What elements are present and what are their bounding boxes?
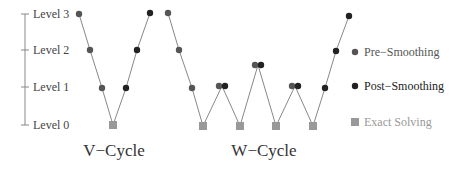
- exact-solving-marker: [236, 122, 244, 130]
- v-cycle-title: V−Cycle: [83, 141, 145, 160]
- pre-smoothing-marker: [176, 47, 182, 53]
- post-smoothing-marker: [147, 10, 153, 16]
- post-smoothing-marker: [322, 85, 328, 91]
- multigrid-cycle-diagram: Level 3Level 2Level 1Level 0 V−CycleW−Cy…: [0, 0, 464, 172]
- pre-smoothing-marker: [252, 62, 258, 68]
- legend-pre-icon: [352, 49, 358, 55]
- legend-post-label: Post−Smoothing: [364, 79, 444, 93]
- post-smoothing-marker: [295, 83, 301, 89]
- post-smoothing-marker: [222, 83, 228, 89]
- pre-smoothing-marker: [165, 10, 171, 16]
- level-label: Level 1: [33, 80, 69, 94]
- level-label: Level 0: [33, 118, 69, 132]
- post-smoothing-marker: [258, 62, 264, 68]
- legend-exact-label: Exact Solving: [364, 115, 432, 129]
- level-label: Level 2: [33, 43, 69, 57]
- v-cycle-path: [79, 13, 150, 125]
- cycle-paths: [79, 13, 349, 126]
- pre-smoothing-marker: [289, 83, 295, 89]
- w-cycle-path: [168, 13, 349, 126]
- legend-exact-icon: [351, 118, 359, 126]
- exact-solving-marker: [199, 122, 207, 130]
- post-smoothing-marker: [333, 48, 339, 54]
- post-smoothing-marker: [134, 47, 140, 53]
- pre-smoothing-marker: [99, 85, 105, 91]
- level-label: Level 3: [33, 7, 69, 21]
- legend: Pre−SmoothingPost−SmoothingExact Solving: [351, 45, 444, 129]
- exact-solving-marker: [272, 122, 280, 130]
- legend-pre-label: Pre−Smoothing: [364, 45, 439, 59]
- w-cycle-title: W−Cycle: [231, 141, 296, 160]
- pre-smoothing-marker: [76, 11, 82, 17]
- post-smoothing-marker: [346, 13, 352, 19]
- cycle-titles: V−CycleW−Cycle: [83, 141, 296, 160]
- post-smoothing-marker: [123, 85, 129, 91]
- pre-smoothing-marker: [189, 85, 195, 91]
- legend-post-icon: [352, 83, 358, 89]
- pre-smoothing-marker: [216, 83, 222, 89]
- exact-solving-marker: [309, 122, 317, 130]
- exact-solving-marker: [109, 121, 117, 129]
- level-axis: Level 3Level 2Level 1Level 0: [21, 7, 69, 132]
- pre-smoothing-marker: [87, 47, 93, 53]
